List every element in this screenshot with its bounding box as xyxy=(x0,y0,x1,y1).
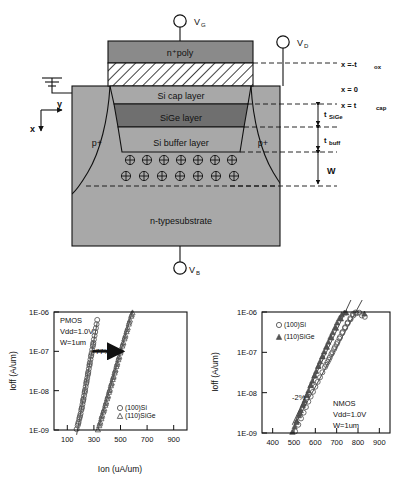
x-tick-label: 500 xyxy=(114,435,127,444)
marker-xcap-sub: cap xyxy=(376,105,387,111)
y-tick-label: 1E-06 xyxy=(237,308,257,317)
legend-marker-triangle xyxy=(117,413,122,418)
device-cross-section-diagram: n⁺poly Si cap layer SiGe layer Si buffer… xyxy=(0,0,403,300)
x-tick-label: 700 xyxy=(330,438,343,447)
marker-tsige-label: t xyxy=(324,110,327,119)
drain-terminal-label: V xyxy=(297,38,303,48)
annotation-width: W=1um xyxy=(333,421,359,430)
body-terminal: V B xyxy=(174,246,200,276)
marker-tsige-sub: SiGe xyxy=(329,114,343,120)
coordinate-axes-indicator xyxy=(41,110,62,131)
annotation-vdd: Vdd=1.0V xyxy=(333,410,366,419)
marker-tox-sub: ox xyxy=(374,64,382,70)
gate-oxide-region xyxy=(108,63,253,86)
marker-tbuff-sub: buff xyxy=(329,140,341,146)
x-tick-label: 300 xyxy=(88,435,101,444)
legend-label: (110)SiGe xyxy=(125,412,156,420)
x-tick-label: 100 xyxy=(61,435,74,444)
body-terminal-sub: B xyxy=(196,270,200,276)
source-doping-label: p+ xyxy=(92,138,102,148)
pmos-yaxis-title: Ioff (A/um) xyxy=(8,351,18,391)
gate-terminal: V G xyxy=(174,15,206,41)
si-cap-layer-label: Si cap layer xyxy=(157,91,204,101)
pmos-xaxis-title: Ion (uA/um) xyxy=(98,464,143,474)
x-tick-label: 700 xyxy=(141,435,154,444)
ground-symbol-icon xyxy=(42,78,72,93)
annotation-device: NMOS xyxy=(333,399,356,408)
drain-terminal-sub: D xyxy=(304,43,309,49)
x-tick-label: 900 xyxy=(373,438,386,447)
body-terminal-label: V xyxy=(189,265,195,275)
y-tick-label: 1E-09 xyxy=(29,426,49,435)
marker-xcap-label: x = t xyxy=(341,101,357,110)
y-tick-label: 1E-09 xyxy=(237,429,257,438)
annotation-vdd: Vdd=1.0V xyxy=(60,327,93,336)
axis-x-label: x xyxy=(30,124,35,134)
legend-marker-circle xyxy=(276,322,281,327)
annotation-width: W=1um xyxy=(60,338,86,347)
substrate-label: n-typesubstrate xyxy=(150,216,212,226)
y-tick-label: 1E-08 xyxy=(237,389,257,398)
annotation-device: PMOS xyxy=(60,316,82,325)
legend-marker-triangle-filled xyxy=(276,334,281,339)
sige-layer-label: SiGe layer xyxy=(160,113,202,123)
marker-tox-label: x =-t xyxy=(341,60,357,69)
y-tick-label: 1E-06 xyxy=(29,308,49,317)
annotation-gain: -2% xyxy=(292,393,306,402)
nmos-ion-ioff-chart: 1E-061E-071E-081E-09400500600700800900 (… xyxy=(202,300,403,484)
x-tick-label: 900 xyxy=(167,435,180,444)
y-tick-label: 1E-07 xyxy=(237,348,257,357)
legend-marker-circle xyxy=(117,405,122,410)
x-tick-label: 600 xyxy=(309,438,322,447)
y-tick-label: 1E-07 xyxy=(29,347,49,356)
data-point xyxy=(321,349,326,354)
x-tick-label: 500 xyxy=(288,438,301,447)
marker-x0-label: x = 0 xyxy=(341,85,358,94)
si-buffer-layer-label: Si buffer layer xyxy=(153,138,208,148)
marker-w-label: W xyxy=(327,166,336,176)
drain-terminal: V D xyxy=(277,36,309,86)
drain-doping-label: p+ xyxy=(258,138,268,148)
legend-label: (100)Si xyxy=(284,321,306,329)
pmos-ion-ioff-chart: 1E-061E-071E-081E-09100300500700900 (100… xyxy=(2,300,202,484)
marker-tbuff-label: t xyxy=(324,136,327,145)
gate-terminal-label: V xyxy=(194,17,200,27)
x-tick-label: 800 xyxy=(352,438,365,447)
legend-label: (110)SiGe xyxy=(284,333,315,341)
x-tick-label: 400 xyxy=(266,438,279,447)
poly-layer-label: n⁺poly xyxy=(167,48,194,58)
legend-label: (100)Si xyxy=(125,404,147,412)
nmos-yaxis-title: Ioff (A/um) xyxy=(210,352,220,392)
y-tick-label: 1E-08 xyxy=(29,387,49,396)
nmos-plot-frame xyxy=(262,312,390,433)
gate-terminal-sub: G xyxy=(201,22,206,28)
axis-y-label: y xyxy=(57,99,62,109)
